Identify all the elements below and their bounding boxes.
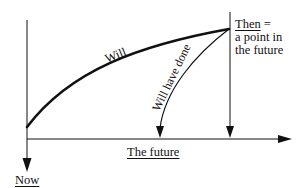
- then-equals: =: [261, 17, 271, 31]
- will-have-done-label: Will have done: [149, 42, 194, 114]
- will-curve: [27, 29, 229, 127]
- then-label: Then = a point in the future: [235, 18, 283, 57]
- then-line3: the future: [235, 43, 283, 57]
- now-arrowhead: [23, 158, 32, 172]
- future-arrowhead: [278, 135, 292, 143]
- then-arrowhead: [226, 126, 234, 138]
- the-future-label: The future: [127, 146, 179, 159]
- will-label: Will: [103, 44, 129, 65]
- then-word: Then: [235, 17, 261, 31]
- then-line2: a point in: [235, 30, 282, 44]
- will-have-done-arrowhead: [156, 126, 164, 138]
- now-label: Now: [15, 174, 39, 187]
